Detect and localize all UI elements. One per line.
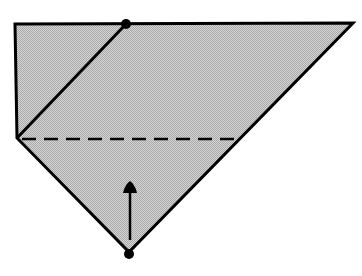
diagram-canvas <box>0 0 362 276</box>
top-reference-dot <box>121 19 131 29</box>
folded-paper-shape <box>15 23 353 252</box>
bottom-reference-dot <box>124 249 134 259</box>
origami-diagram <box>0 0 362 276</box>
